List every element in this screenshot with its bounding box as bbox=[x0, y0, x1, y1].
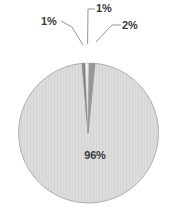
leader-line-thin-center bbox=[88, 9, 95, 44]
pie-chart: 1% 1% 2% 96% bbox=[0, 0, 190, 218]
pie-label-thin-left: 1% bbox=[41, 16, 57, 27]
pie-label-thin-center: 1% bbox=[96, 3, 112, 14]
pie-label-main: 96% bbox=[0, 150, 190, 161]
pie-chart-canvas bbox=[0, 0, 190, 218]
leader-line-thin-left bbox=[61, 21, 83, 45]
pie-label-thin-right: 2% bbox=[122, 20, 138, 31]
leader-line-thin-right bbox=[96, 25, 121, 42]
